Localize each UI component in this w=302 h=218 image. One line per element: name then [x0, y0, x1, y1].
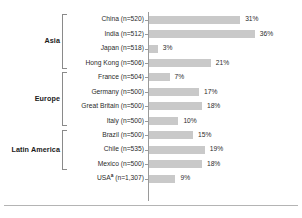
bar: [149, 30, 255, 38]
chart-row: USAa (n=1,307)9%: [0, 171, 302, 185]
value-label: 21%: [216, 56, 229, 70]
category-label: Italy (n=500): [60, 114, 144, 128]
bar: [149, 175, 175, 183]
bar: [149, 102, 202, 110]
category-label: Hong Kong (n=506): [60, 56, 144, 70]
category-label: Germany (n=500): [60, 85, 144, 99]
chart-row: Chile (n=535)19%: [0, 142, 302, 156]
value-label: 17%: [204, 85, 217, 99]
chart-row: Italy (n=500)10%: [0, 114, 302, 128]
bar: [149, 88, 199, 96]
chart-row: India (n=512)36%: [0, 27, 302, 41]
bar: [149, 146, 205, 154]
category-label: India (n=512): [60, 27, 144, 41]
category-label: Great Britain (n=500): [60, 99, 144, 113]
bar-chart: AsiaEuropeLatin America China (n=520)31%…: [0, 0, 302, 218]
bar: [149, 117, 178, 125]
value-label: 15%: [198, 128, 211, 142]
footer-divider: [4, 205, 298, 206]
chart-row: Germany (n=500)17%: [0, 85, 302, 99]
chart-row: China (n=520)31%: [0, 12, 302, 26]
chart-row: Japan (n=518)3%: [0, 41, 302, 55]
value-label: 9%: [180, 171, 190, 185]
category-label: Mexico (n=500): [60, 157, 144, 171]
bar: [149, 16, 240, 24]
value-label: 18%: [207, 157, 220, 171]
category-label: Brazil (n=500): [60, 128, 144, 142]
chart-row: Hong Kong (n=506)21%: [0, 56, 302, 70]
chart-row: Great Britain (n=500)18%: [0, 99, 302, 113]
value-label: 19%: [210, 142, 223, 156]
category-label: Japan (n=518): [60, 41, 144, 55]
value-label: 36%: [260, 27, 273, 41]
category-label: France (n=504): [60, 70, 144, 84]
chart-row: Mexico (n=500)18%: [0, 157, 302, 171]
value-label: 18%: [207, 99, 220, 113]
bar: [149, 59, 211, 67]
value-label: 31%: [245, 12, 258, 26]
value-label: 3%: [163, 41, 173, 55]
bar: [149, 45, 158, 53]
category-label: USAa (n=1,307): [60, 171, 144, 185]
chart-row: France (n=504)7%: [0, 70, 302, 84]
bar: [149, 160, 202, 168]
category-label: China (n=520): [60, 12, 144, 26]
bar: [149, 73, 170, 81]
value-label: 7%: [175, 70, 185, 84]
category-label: Chile (n=535): [60, 142, 144, 156]
value-label: 10%: [183, 114, 196, 128]
bar: [149, 131, 193, 139]
chart-row: Brazil (n=500)15%: [0, 128, 302, 142]
